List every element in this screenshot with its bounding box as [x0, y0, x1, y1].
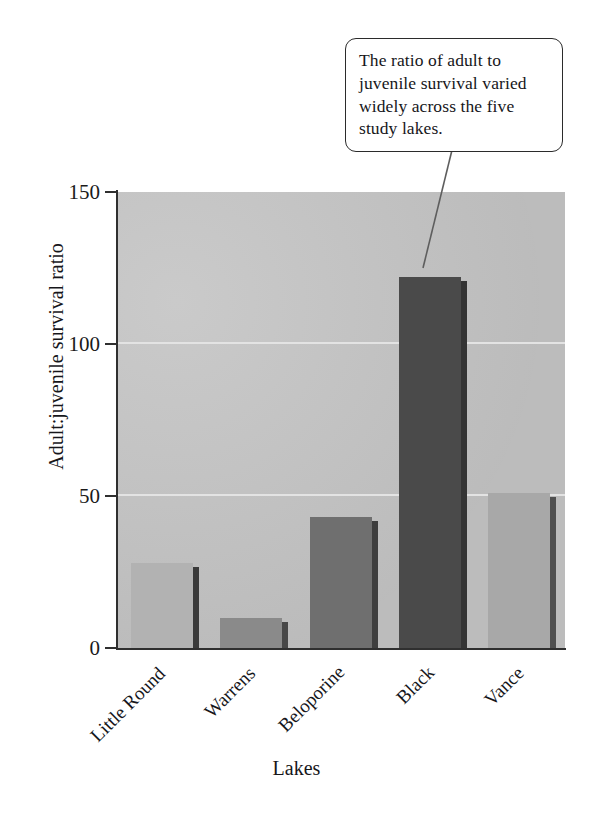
bar-side-edge — [550, 497, 556, 648]
x-axis-tick-label: Warrens — [200, 662, 260, 722]
bar-side-edge — [282, 622, 288, 648]
y-axis-tick-mark — [105, 191, 116, 193]
bar-side-edge — [461, 281, 467, 648]
bar-face — [399, 277, 461, 648]
bar-side-edge — [193, 567, 199, 648]
x-axis-title: Lakes — [0, 757, 593, 780]
bar-side-edge — [372, 521, 378, 648]
bar-face — [488, 493, 550, 648]
gridline — [118, 342, 565, 344]
chart-page: The ratio of adult to juvenile survival … — [0, 0, 593, 817]
plot-area — [118, 192, 565, 648]
bar — [488, 493, 556, 648]
annotation-callout-text: The ratio of adult to juvenile survival … — [359, 49, 550, 140]
bar — [310, 517, 378, 648]
bar — [220, 618, 288, 648]
bar-face — [310, 517, 372, 648]
y-axis-line — [116, 190, 118, 650]
x-axis-tick-label: Vance — [480, 662, 528, 710]
y-axis-tick-mark — [105, 495, 116, 497]
bar-face — [131, 563, 193, 648]
x-axis-tick-label: Beloporine — [274, 662, 349, 737]
bar — [131, 563, 199, 648]
y-axis-title: Adult:juvenile survival ratio — [45, 207, 68, 507]
y-axis-tick-mark — [105, 343, 116, 345]
annotation-callout: The ratio of adult to juvenile survival … — [345, 38, 563, 152]
x-axis-line — [116, 648, 566, 650]
x-axis-tick-label: Black — [392, 662, 439, 709]
bar-face — [220, 618, 282, 648]
y-axis-tick-label: 0 — [54, 636, 100, 661]
bar — [399, 277, 467, 648]
y-axis-tick-label: 150 — [54, 180, 100, 205]
y-axis-tick-mark — [105, 647, 116, 649]
